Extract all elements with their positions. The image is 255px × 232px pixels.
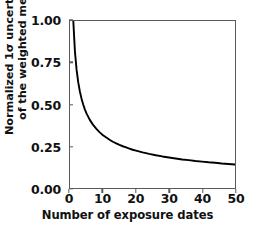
figure-normalized-uncertainty-chart: Normalized 1σ uncertainty of the weighte… [0,0,255,232]
y-axis-tick-labels: 0.000.250.500.751.00 [0,20,66,189]
plot-area [69,20,236,189]
x-tick-mark [235,189,236,193]
x-tick-label: 10 [94,191,111,206]
y-tick-label: 0.50 [31,97,61,112]
data-curve-svg [70,21,235,188]
y-tick-label: 1.00 [31,13,61,28]
x-tick-mark [68,189,69,193]
x-tick-mark [168,189,169,193]
x-tick-label: 40 [194,191,211,206]
y-tick-mark [69,104,73,105]
x-axis-title: Number of exposure dates [0,208,255,222]
x-tick-mark [202,189,203,193]
y-tick-mark [69,19,73,20]
y-tick-mark [69,146,73,147]
x-axis-tick-labels: 01020304050 [0,191,255,207]
series-line-normalized-uncertainty [73,21,235,164]
y-tick-mark [69,62,73,63]
x-tick-label: 20 [127,191,144,206]
x-tick-mark [135,189,136,193]
x-tick-label: 30 [161,191,178,206]
y-tick-label: 0.75 [31,55,61,70]
x-tick-label: 0 [65,191,74,206]
x-tick-label: 50 [228,191,245,206]
y-tick-label: 0.25 [31,139,61,154]
x-tick-mark [102,189,103,193]
